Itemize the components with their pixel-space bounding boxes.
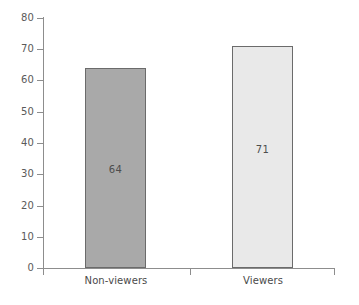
x-axis-category-label-non-viewers: Non-viewers <box>70 275 162 287</box>
y-axis-tick-30 <box>37 174 43 175</box>
y-axis-label-40: 40 <box>4 138 34 148</box>
y-axis-tick-10 <box>37 237 43 238</box>
plot-area: 80 70 60 50 40 30 20 10 0 64 71 Non-view… <box>0 0 359 305</box>
bar-chart: 80 70 60 50 40 30 20 10 0 64 71 Non-view… <box>0 0 359 305</box>
y-axis-line <box>43 17 44 269</box>
bar-value-label-non-viewers: 64 <box>85 164 146 175</box>
x-axis-tick-end <box>334 268 335 275</box>
y-axis-label-80: 80 <box>4 13 34 23</box>
bar-viewers[interactable] <box>232 46 293 268</box>
x-axis-line <box>43 268 335 269</box>
y-axis-label-60: 60 <box>4 75 34 85</box>
y-axis-tick-20 <box>37 206 43 207</box>
y-axis-label-50: 50 <box>4 107 34 117</box>
y-axis-tick-80 <box>37 18 43 19</box>
x-axis-tick-middle <box>190 268 191 275</box>
x-axis-tick-start <box>43 268 44 275</box>
y-axis-tick-50 <box>37 112 43 113</box>
y-axis-tick-70 <box>37 49 43 50</box>
x-axis-category-label-viewers: Viewers <box>217 275 309 287</box>
y-axis-tick-60 <box>37 80 43 81</box>
y-axis-label-70: 70 <box>4 44 34 54</box>
y-axis-label-0: 0 <box>4 263 34 273</box>
y-axis-tick-40 <box>37 143 43 144</box>
y-axis-label-10: 10 <box>4 232 34 242</box>
y-axis-label-20: 20 <box>4 201 34 211</box>
y-axis-label-30: 30 <box>4 169 34 179</box>
bar-value-label-viewers: 71 <box>232 144 293 155</box>
